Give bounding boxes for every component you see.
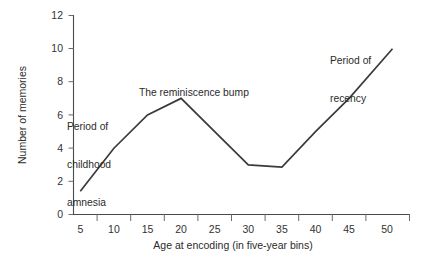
annotation-period-of-recency-line-1: Period of bbox=[330, 55, 371, 68]
annotation-period-of-recency-line-2: recency bbox=[330, 93, 371, 106]
y-tick-label-6: 6 bbox=[57, 109, 63, 121]
x-tick-label-35: 35 bbox=[276, 223, 288, 235]
x-tick-label-30: 30 bbox=[242, 223, 254, 235]
annotation-childhood-amnesia-line-1: Period of bbox=[67, 121, 111, 134]
y-axis-tick-labels: 0 2 4 6 8 10 12 bbox=[51, 9, 63, 220]
y-tick-label-4: 4 bbox=[57, 142, 63, 154]
annotation-childhood-amnesia-line-3: amnesia bbox=[67, 197, 111, 210]
x-tick-label-15: 15 bbox=[142, 223, 154, 235]
x-tick-label-20: 20 bbox=[175, 223, 187, 235]
annotation-period-of-recency: Period of recency bbox=[330, 30, 371, 131]
x-axis-tick-labels: 5 10 15 20 25 30 35 40 45 50 bbox=[77, 223, 393, 235]
y-axis-title: Number of memories bbox=[16, 66, 28, 164]
x-axis-title: Age at encoding (in five-year bins) bbox=[153, 239, 312, 251]
annotation-childhood-amnesia: Period of childhood amnesia bbox=[67, 96, 111, 235]
y-tick-label-10: 10 bbox=[51, 42, 63, 54]
x-tick-label-40: 40 bbox=[310, 223, 322, 235]
y-tick-label-8: 8 bbox=[57, 75, 63, 87]
annotation-reminiscence-bump-line-1: The reminiscence bump bbox=[139, 87, 249, 100]
y-tick-label-2: 2 bbox=[57, 175, 63, 187]
y-tick-label-12: 12 bbox=[51, 9, 63, 21]
x-tick-label-45: 45 bbox=[343, 223, 355, 235]
x-axis-ticks bbox=[97, 215, 409, 222]
memory-retrieval-line-chart: 0 2 4 6 8 10 12 5 10 15 20 25 bbox=[0, 0, 430, 266]
annotation-reminiscence-bump: The reminiscence bump bbox=[139, 62, 249, 125]
y-tick-label-0: 0 bbox=[57, 208, 63, 220]
x-tick-label-50: 50 bbox=[381, 223, 393, 235]
x-tick-label-25: 25 bbox=[209, 223, 221, 235]
annotation-childhood-amnesia-line-2: childhood bbox=[67, 159, 111, 172]
